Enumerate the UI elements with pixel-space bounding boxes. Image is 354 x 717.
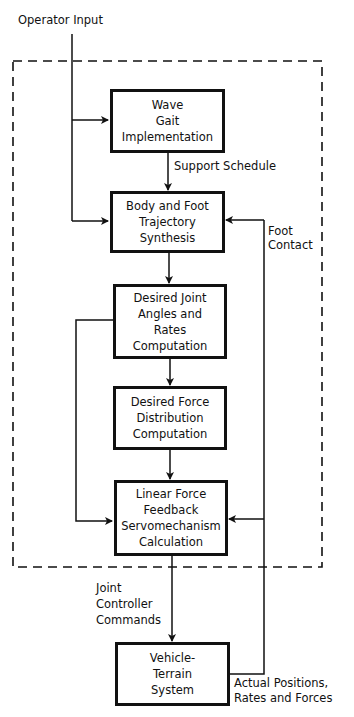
block-line: Body and Foot (126, 198, 209, 214)
support-schedule-label: Support Schedule (174, 159, 276, 174)
block-desired-force-distribution: Desired Force Distribution Computation (113, 386, 227, 450)
block-line: Synthesis (140, 230, 195, 246)
block-wave-gait: Wave Gait Implementation (110, 89, 225, 153)
block-line: System (151, 682, 194, 698)
foot-contact-label: Foot Contact (268, 224, 313, 252)
block-line: Desired Force (131, 394, 210, 410)
block-line: Computation (133, 426, 207, 442)
label-line: Rates and Forces (234, 691, 332, 706)
block-line: Terrain (153, 666, 192, 682)
block-line: Implementation (122, 129, 213, 145)
block-desired-joint-angles: Desired Joint Angles and Rates Computati… (113, 284, 227, 359)
block-line: Wave (152, 97, 184, 113)
actual-feedback-label: Actual Positions, Rates and Forces (234, 676, 332, 706)
block-line: Servomechanism (121, 518, 221, 534)
block-line: Trajectory (139, 214, 196, 230)
block-line: Rates (154, 322, 186, 338)
label-line: Contact (268, 238, 313, 252)
block-line: Desired Joint (133, 290, 206, 306)
label-line: Actual Positions, (234, 676, 332, 691)
block-line: Calculation (139, 534, 203, 550)
block-line: Computation (133, 338, 207, 354)
block-line: Angles and (138, 306, 202, 322)
block-line: Distribution (136, 410, 203, 426)
joint-controller-commands-label: Joint Controller Commands (96, 580, 161, 628)
block-line: Linear Force (136, 486, 207, 502)
operator-input-label: Operator Input (18, 13, 103, 28)
block-vehicle-terrain: Vehicle- Terrain System (115, 642, 230, 706)
block-line: Gait (156, 113, 180, 129)
label-line: Commands (96, 612, 161, 628)
block-line: Feedback (144, 502, 199, 518)
label-line: Controller (96, 596, 161, 612)
label-line: Joint (96, 580, 161, 596)
block-linear-force-feedback: Linear Force Feedback Servomechanism Cal… (114, 480, 228, 556)
block-body-foot-trajectory: Body and Foot Trajectory Synthesis (110, 191, 225, 253)
label-line: Foot (268, 224, 313, 238)
block-line: Vehicle- (150, 650, 195, 666)
